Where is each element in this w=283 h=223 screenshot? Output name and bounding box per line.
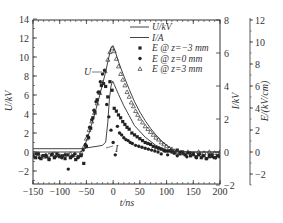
legend-e-0: E @ z=0 mm xyxy=(138,54,202,64)
marker-circle xyxy=(116,125,119,128)
marker-circle xyxy=(109,128,112,131)
left-tick-label: 6 xyxy=(24,90,29,101)
x-tick-label: −100 xyxy=(49,186,70,197)
marker-square xyxy=(110,89,113,92)
left-tick-label: 8 xyxy=(24,71,29,82)
right-axis-label-field: E/(kV/cm) xyxy=(259,80,271,122)
marker-circle xyxy=(198,152,201,155)
marker-triangle xyxy=(213,151,217,155)
marker-square xyxy=(123,123,126,126)
legend-i: I/A xyxy=(130,33,164,43)
left-tick-label: −2 xyxy=(18,166,29,177)
marker-triangle xyxy=(141,120,145,124)
left-tick-label: 10 xyxy=(19,52,29,63)
marker-circle xyxy=(211,155,214,158)
marker-circle xyxy=(131,142,134,145)
right-tick-label-current: 0 xyxy=(224,147,229,158)
marker-triangle xyxy=(123,83,127,87)
marker-circle xyxy=(156,150,159,153)
marker-circle xyxy=(160,152,163,155)
right-tick-label-current: 8 xyxy=(224,15,229,26)
marker-circle xyxy=(134,144,137,147)
x-tick-label: 150 xyxy=(186,186,201,197)
right-tick-label-current: −2 xyxy=(224,180,235,191)
marker-circle xyxy=(38,156,41,159)
marker-circle xyxy=(176,154,179,157)
marker-square xyxy=(128,128,131,131)
marker-circle xyxy=(185,155,188,158)
x-axis-label: t/ns xyxy=(120,197,135,208)
x-tick-label: −50 xyxy=(79,186,95,197)
marker-triangle xyxy=(131,104,135,108)
marker-square xyxy=(113,107,116,110)
legend-e-minus3: E @ z=−3 mm xyxy=(138,43,208,53)
marker-square xyxy=(121,120,124,123)
x-tick-label: −150 xyxy=(23,186,44,197)
series-line xyxy=(33,81,220,152)
marker-triangle xyxy=(125,90,129,94)
right-tick-label-current: 4 xyxy=(224,81,229,92)
marker-circle xyxy=(120,133,123,136)
left-tick-label: 2 xyxy=(24,128,29,139)
marker-circle xyxy=(137,145,140,148)
x-tick-label: 50 xyxy=(135,186,145,197)
legend-label: E @ z=−3 mm xyxy=(151,43,209,53)
marker-circle xyxy=(105,103,108,106)
legend: U/kVI/AE @ z=−3 mmE @ z=0 mmE @ z=3 mm xyxy=(130,22,209,74)
left-tick-label: 0 xyxy=(24,147,29,158)
marker-square xyxy=(104,85,107,88)
annotation-u: U xyxy=(84,66,92,77)
marker-circle xyxy=(144,147,147,150)
marker-circle xyxy=(204,157,207,160)
axes: −150−100−50050100150200−202468101214−202… xyxy=(18,14,265,198)
marker-square xyxy=(119,116,122,119)
marker-triangle xyxy=(134,109,138,113)
legend-label: E @ z=3 mm xyxy=(151,64,202,74)
marker-square xyxy=(82,162,85,165)
marker-circle xyxy=(47,157,50,160)
legend-u: U/kV xyxy=(130,22,173,32)
marker-circle xyxy=(150,148,153,151)
marker-circle xyxy=(166,153,169,156)
marker-triangle xyxy=(136,113,140,117)
right-tick-label-field: 10 xyxy=(255,37,265,48)
right-tick-label-field: 2 xyxy=(255,125,260,136)
annotation-i: I xyxy=(114,143,119,154)
marker-triangle xyxy=(143,124,147,128)
marker-circle xyxy=(147,147,150,150)
marker-triangle xyxy=(127,95,131,99)
right-tick-label-field: −2 xyxy=(255,169,266,180)
marker-circle xyxy=(67,167,70,170)
marker-circle xyxy=(195,156,198,159)
marker-triangle xyxy=(47,153,51,157)
right-tick-label-current: 6 xyxy=(224,48,229,59)
marker-circle xyxy=(214,156,217,159)
right-tick-label-current: 2 xyxy=(224,114,229,125)
legend-label: U/kV xyxy=(152,22,173,32)
marker-triangle xyxy=(129,100,133,104)
left-tick-label: 4 xyxy=(24,109,29,120)
marker-square xyxy=(106,95,109,98)
left-axis-label: U/kV xyxy=(3,89,14,111)
marker-square xyxy=(108,80,111,83)
x-tick-label: 100 xyxy=(159,186,174,197)
legend-e-3: E @ z=3 mm xyxy=(138,64,202,74)
legend-label: I/A xyxy=(151,33,164,43)
x-tick-label: 0 xyxy=(111,186,116,197)
marker-circle xyxy=(140,146,143,149)
legend-label: E @ z=0 mm xyxy=(151,54,202,64)
right-axis-label-current: I/kV xyxy=(230,91,241,111)
marker-square xyxy=(63,157,66,160)
marker-triangle xyxy=(138,117,142,121)
right-tick-label-field: 8 xyxy=(255,59,260,70)
chart: UI −150−100−50050100150200−202468101214−… xyxy=(0,0,283,223)
marker-circle xyxy=(153,149,156,152)
marker-square xyxy=(115,110,118,113)
marker-triangle xyxy=(202,151,206,155)
marker-square xyxy=(117,113,120,116)
right-tick-label-field: 12 xyxy=(255,15,265,26)
left-tick-label: 14 xyxy=(19,14,29,25)
marker-circle xyxy=(163,149,166,152)
right-tick-label-field: 0 xyxy=(255,147,260,158)
marker-circle xyxy=(107,115,110,118)
